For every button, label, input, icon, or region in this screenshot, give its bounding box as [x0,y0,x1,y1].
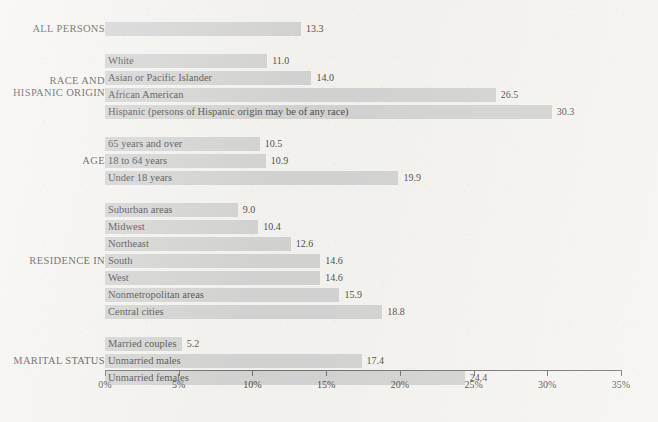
bar-label: South [108,254,133,268]
bar-label: Northeast [108,237,149,251]
axis-tick-label: 15% [317,379,335,390]
bar-value-label: 14.6 [325,254,343,268]
bar-fill [105,271,320,285]
bar-value-label: 14.0 [316,71,334,85]
bar-label: 18 to 64 years [108,154,167,168]
bar-value-label: 14.6 [325,271,343,285]
axis-tick-label: 35% [612,379,630,390]
bar-row: 65 years and over10.5 [105,137,260,151]
bar-label: Hispanic (persons of Hispanic origin may… [108,105,349,119]
bar-value-label: 26.5 [501,88,519,102]
axis-tick [547,370,548,376]
axis-tick [474,370,475,376]
x-axis-line [105,370,621,371]
bar-value-label: 19.9 [403,171,421,185]
axis-tick-label: 20% [391,379,409,390]
bar-value-label: 11.0 [272,54,289,68]
axis-tick [105,370,106,376]
group-category-label: AGE [0,155,105,167]
bar-label: Nonmetropolitan areas [108,288,204,302]
bar-value-label: 10.5 [265,137,283,151]
bar-label: 65 years and over [108,137,182,151]
bar-value-label: 15.9 [344,288,362,302]
bar-fill [105,22,301,36]
bar-row: Asian or Pacific Islander14.0 [105,71,311,85]
bar-label: Under 18 years [108,171,172,185]
bar-row: 13.3 [105,22,301,36]
bar-label: West [108,271,129,285]
bar-value-label: 5.2 [187,337,200,351]
axis-tick-label: 10% [243,379,261,390]
bar-row: Central cities18.8 [105,305,382,319]
bar-value-label: 10.9 [271,154,289,168]
bar-value-label: 9.0 [243,203,256,217]
bar-value-label: 17.4 [367,354,385,368]
bar-row: Midwest10.4 [105,220,258,234]
bar-label: African American [108,88,184,102]
axis-tick [252,370,253,376]
bar-value-label: 10.4 [263,220,281,234]
axis-tick [179,370,180,376]
bar-label: Midwest [108,220,145,234]
horizontal-bar-chart: 13.3ALL PERSONSWhite11.0Asian or Pacific… [0,0,658,422]
bar-row: South14.6 [105,254,320,268]
axis-tick [326,370,327,376]
axis-tick [400,370,401,376]
bar-value-label: 18.8 [387,305,405,319]
group-category-label: MARITAL STATUS [0,355,105,367]
axis-tick-label: 25% [464,379,482,390]
bar-fill [105,254,320,268]
bar-label: Asian or Pacific Islander [108,71,212,85]
axis-tick-label: 30% [538,379,556,390]
bar-row: Under 18 years19.9 [105,171,398,185]
bar-row: 18 to 64 years10.9 [105,154,266,168]
bar-row: Married couples5.2 [105,337,182,351]
bar-value-label: 13.3 [306,22,324,36]
axis-tick-label: 5% [172,379,185,390]
bar-row: Nonmetropolitan areas15.9 [105,288,339,302]
bar-label: White [108,54,134,68]
axis-tick-label: 0% [98,379,111,390]
bar-row: Unmarried males17.4 [105,354,362,368]
bar-row: African American26.5 [105,88,496,102]
bar-value-label: 30.3 [557,105,575,119]
bar-row: Suburban areas9.0 [105,203,238,217]
group-category-label: RACE AND HISPANIC ORIGIN [0,75,105,99]
bar-row: Hispanic (persons of Hispanic origin may… [105,105,552,119]
bar-label: Unmarried males [108,354,181,368]
bar-label: Central cities [108,305,164,319]
bar-row: West14.6 [105,271,320,285]
bar-value-label: 12.6 [296,237,314,251]
bar-row: Northeast12.6 [105,237,291,251]
group-category-label: RESIDENCE IN [0,255,105,267]
bar-row: White11.0 [105,54,267,68]
bar-label: Married couples [108,337,177,351]
axis-tick [621,370,622,376]
group-category-label: ALL PERSONS [0,23,105,35]
bar-label: Suburban areas [108,203,172,217]
bar-row: Unmarried females24.4 [105,371,465,385]
